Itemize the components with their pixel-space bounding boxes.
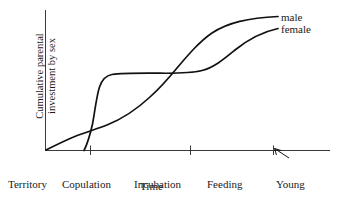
legend-label-male: male <box>281 11 302 23</box>
x-category-copulation-line1: Copulation <box>62 178 128 190</box>
curve-female <box>84 29 278 151</box>
figure-container: Cumulative parental investment by sex ma… <box>0 0 350 198</box>
legend-label-female: female <box>281 23 311 35</box>
x-category-territory-defense-line1: Territory <box>8 178 47 190</box>
y-axis-label: Cumulative parental investment by sex <box>34 16 58 136</box>
curve-male <box>46 17 278 151</box>
x-category-feeding-of-young: Feeding of young <box>207 154 246 198</box>
y-axis-label-line1: Cumulative parental <box>34 16 46 136</box>
x-category-feeding-line1: Feeding <box>207 178 246 190</box>
x-axis-label: Time <box>140 180 163 192</box>
x-category-young-independent-line1: Young <box>276 178 330 190</box>
x-category-territory-defense: Territory defense <box>8 154 47 198</box>
x-category-young-independent: Young independent <box>276 154 330 198</box>
y-axis-label-wrap: Cumulative parental investment by sex <box>8 18 38 138</box>
y-axis-label-line2: investment by sex <box>46 16 58 136</box>
x-category-copulation-and-egg-laying: Copulation and egg-laying <box>62 154 128 198</box>
